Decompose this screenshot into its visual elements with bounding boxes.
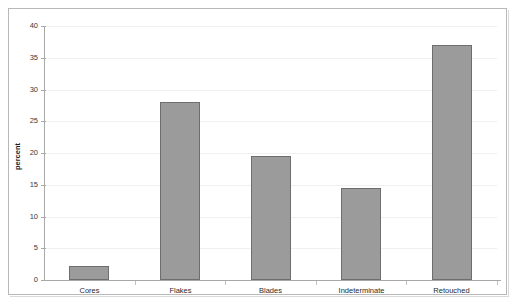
y-axis-tick <box>41 248 46 249</box>
y-axis-tick-label: 20 <box>6 149 38 157</box>
y-axis-tick-label: 35 <box>6 54 38 62</box>
y-axis-tick-label-text: 35 <box>10 54 38 62</box>
bar <box>160 102 200 280</box>
y-axis-tick <box>41 185 46 186</box>
y-axis-tick-label-text: 0 <box>10 276 38 284</box>
x-axis-tick <box>316 281 317 285</box>
gridline <box>44 90 497 91</box>
y-axis-tick <box>41 26 46 27</box>
y-axis-tick <box>41 217 46 218</box>
y-axis-tick-label: 10 <box>6 213 38 221</box>
y-axis-tick-label-text: 5 <box>10 244 38 252</box>
y-axis-tick <box>41 90 46 91</box>
y-axis-tick <box>41 121 46 122</box>
bar <box>251 156 291 280</box>
x-axis-tick-label: Indeterminate <box>316 286 407 295</box>
y-axis-tick-label: 25 <box>6 117 38 125</box>
y-axis-tick <box>41 280 46 281</box>
y-axis-tick <box>41 153 46 154</box>
y-axis-tick-label-text: 10 <box>10 213 38 221</box>
x-axis-tick <box>225 281 226 285</box>
y-axis-tick-label-text: 25 <box>10 117 38 125</box>
y-axis-tick-label-text: 40 <box>10 22 38 30</box>
bar-chart-figure: percent 0510152025303540 CoresFlakesBlad… <box>0 0 517 304</box>
gridline <box>44 153 497 154</box>
y-axis-tick-label-text: 30 <box>10 86 38 94</box>
x-axis-tick <box>497 281 498 285</box>
x-axis-tick-label: Retouched <box>406 286 497 295</box>
gridline <box>44 58 497 59</box>
bar <box>341 188 381 280</box>
y-axis-tick-label: 30 <box>6 86 38 94</box>
bar <box>69 266 109 280</box>
y-axis-tick <box>41 58 46 59</box>
x-axis-tick-label: Cores <box>44 286 135 295</box>
y-axis-tick-label: 15 <box>6 181 38 189</box>
y-axis-tick-label: 5 <box>6 244 38 252</box>
y-axis-tick-label-text: 15 <box>10 181 38 189</box>
y-axis-tick-label: 40 <box>6 22 38 30</box>
x-axis-tick <box>406 281 407 285</box>
y-axis-tick-label: 0 <box>6 276 38 284</box>
bar <box>432 45 472 280</box>
x-axis-line <box>44 280 501 281</box>
x-axis-tick-label: Flakes <box>135 286 226 295</box>
gridline <box>44 121 497 122</box>
gridline <box>44 26 497 27</box>
y-axis-tick-label-text: 20 <box>10 149 38 157</box>
x-axis-tick <box>135 281 136 285</box>
x-axis-tick-label: Blades <box>225 286 316 295</box>
